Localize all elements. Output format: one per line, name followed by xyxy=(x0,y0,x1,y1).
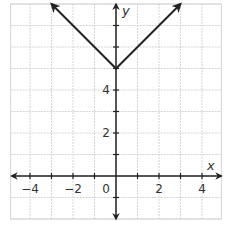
axes xyxy=(12,4,222,219)
y-tick-label: 2 xyxy=(102,126,110,140)
x-tick-label: 4 xyxy=(198,182,206,196)
y-axis-label: y xyxy=(121,3,130,18)
x-tick-label: 0 xyxy=(102,182,110,196)
y-tick-label: 4 xyxy=(102,83,110,97)
x-tick-label: 2 xyxy=(155,182,163,196)
graph: −4−202424xy xyxy=(0,0,227,227)
x-tick-label: −4 xyxy=(21,182,39,196)
x-tick-label: −2 xyxy=(64,182,82,196)
tick-labels: −4−202424xy xyxy=(21,3,215,196)
x-axis-label: x xyxy=(206,158,215,173)
